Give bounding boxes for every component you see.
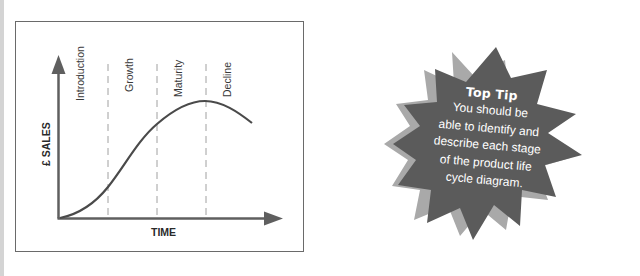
y-axis-arrow-icon [52,55,66,74]
x-axis-label: TIME [151,226,176,238]
stage-label-decline: Decline [221,62,233,97]
top-tip: Top Tip You should be able to identify a… [414,80,562,195]
x-axis-arrow-icon [264,212,283,226]
sales-curve [60,101,252,218]
top-tip-body: You should be able to identify and descr… [414,96,561,195]
stage-label-maturity: Maturity [172,60,184,97]
stage-label-introduction: Introduction [74,46,86,101]
y-axis-label: £ SALES [40,122,52,166]
stage-label-growth: Growth [123,58,135,92]
